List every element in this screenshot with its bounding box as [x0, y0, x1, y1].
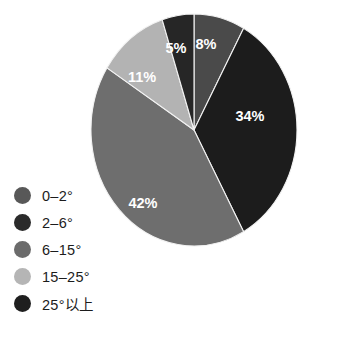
legend-swatch-2-6-icon: [14, 214, 31, 231]
legend-item-label: 6–15°: [42, 242, 82, 258]
legend-item[interactable]: 0–2°: [14, 182, 144, 209]
legend-item-label: 25°以上: [42, 293, 93, 314]
legend-swatch-25-above-icon: [14, 295, 31, 312]
legend-item-label: 15–25°: [42, 269, 90, 285]
pie-slice-label: 5%: [166, 40, 187, 56]
legend-item[interactable]: 15–25°: [14, 263, 144, 290]
legend-item-label: 2–6°: [42, 215, 73, 231]
pie-slice-label: 8%: [196, 36, 217, 52]
pie-chart: 8%34%42%11%5% 0–2°2–6°6–15°15–25°25°以上: [0, 0, 348, 346]
legend-swatch-15-25-icon: [14, 268, 31, 285]
legend: 0–2°2–6°6–15°15–25°25°以上: [14, 182, 144, 317]
legend-item[interactable]: 2–6°: [14, 209, 144, 236]
legend-item[interactable]: 25°以上: [14, 290, 144, 317]
legend-swatch-6-15-icon: [14, 241, 31, 258]
legend-item[interactable]: 6–15°: [14, 236, 144, 263]
legend-item-label: 0–2°: [42, 188, 73, 204]
legend-swatch-0-2-icon: [14, 187, 31, 204]
pie-slice-label: 11%: [128, 69, 156, 85]
pie-slice-label: 34%: [235, 108, 264, 124]
